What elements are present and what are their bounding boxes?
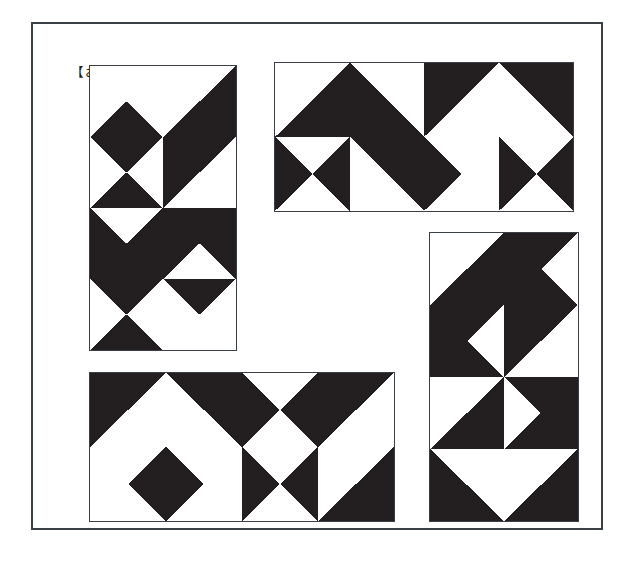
tile-triangles [350, 63, 425, 137]
pattern-tile [318, 373, 394, 447]
tile-triangles [90, 279, 163, 350]
pattern-tile [166, 373, 242, 447]
tile-triangles [275, 63, 350, 137]
tile-triangles [163, 279, 236, 350]
tile-triangles [430, 305, 504, 377]
tile-triangles [424, 63, 499, 137]
tile-triangles [275, 137, 350, 211]
tile-triangles [90, 373, 166, 447]
tile-triangles [430, 233, 504, 305]
pattern-tile [430, 305, 504, 377]
pattern-tile [90, 66, 163, 137]
tile-triangles [163, 208, 236, 279]
tile-panel-bottom-left [89, 372, 395, 522]
tile-triangles [166, 447, 242, 521]
tile-triangles [499, 137, 574, 211]
pattern-tile [275, 63, 350, 137]
pattern-tile [424, 63, 499, 137]
pattern-tile [350, 63, 425, 137]
tile-triangles [90, 66, 163, 137]
pattern-tile [242, 447, 318, 521]
pattern-tile [499, 137, 574, 211]
tile-grid [90, 373, 394, 521]
tile-panel-top-left [89, 65, 237, 351]
tile-triangles [166, 373, 242, 447]
tile-triangles [163, 66, 236, 137]
tile-triangles [242, 373, 318, 447]
pattern-tile [163, 66, 236, 137]
pattern-tile [430, 449, 504, 521]
pattern-tile [166, 447, 242, 521]
pattern-tile [90, 279, 163, 350]
tile-triangles [430, 377, 504, 449]
pattern-tile [90, 137, 163, 208]
pattern-tile [504, 233, 578, 305]
pattern-tile [275, 137, 350, 211]
tile-triangles [504, 449, 578, 521]
pattern-tile [430, 377, 504, 449]
tile-triangles [430, 449, 504, 521]
pattern-tile [318, 447, 394, 521]
tile-triangles [504, 305, 578, 377]
pattern-tile [90, 447, 166, 521]
tile-grid [90, 66, 236, 350]
pattern-tile [90, 373, 166, 447]
worksheet-frame: 【お手本】 [31, 22, 603, 530]
pattern-tile [504, 449, 578, 521]
pattern-tile [163, 208, 236, 279]
tile-triangles [90, 447, 166, 521]
pattern-tile [499, 63, 574, 137]
tile-triangles [90, 137, 163, 208]
pattern-tile [424, 137, 499, 211]
tile-grid [430, 233, 578, 521]
tile-triangles [242, 447, 318, 521]
tile-panel-top-right [274, 62, 574, 212]
tile-triangles [318, 373, 394, 447]
tile-triangles [504, 377, 578, 449]
pattern-tile [163, 137, 236, 208]
tile-triangles [424, 137, 499, 211]
pattern-tile [90, 208, 163, 279]
tile-triangles [163, 137, 236, 208]
pattern-tile [350, 137, 425, 211]
tile-triangles [350, 137, 425, 211]
tile-triangles [499, 63, 574, 137]
tile-panel-right [429, 232, 579, 522]
pattern-tile [242, 373, 318, 447]
tile-triangles [318, 447, 394, 521]
pattern-tile [504, 305, 578, 377]
pattern-tile [163, 279, 236, 350]
pattern-tile [430, 233, 504, 305]
tile-triangles [90, 208, 163, 279]
pattern-tile [504, 377, 578, 449]
tile-triangles [504, 233, 578, 305]
tile-grid [275, 63, 573, 211]
